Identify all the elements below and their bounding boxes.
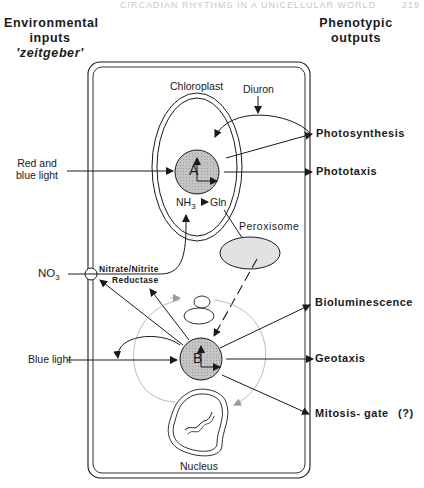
mitosis-gate-arrow <box>222 375 309 414</box>
oscillator-a-label: A <box>189 162 198 178</box>
peroxisome-icon <box>220 237 280 269</box>
red-blue-light-label: Red and blue light <box>16 157 58 181</box>
nh3-subscript: 3 <box>191 202 195 211</box>
nh3-text: NH <box>176 196 191 208</box>
gln-label: Gln <box>210 196 226 208</box>
diuron-label: Diuron <box>243 83 274 95</box>
geotaxis-label: Geotaxis <box>315 352 365 364</box>
b-reductase-arrow <box>150 289 189 340</box>
peroxisome-label: Peroxisome <box>239 220 299 232</box>
vesicle-icon <box>184 308 214 324</box>
no3-label: NO3 <box>38 267 60 282</box>
small-vesicle-icon <box>194 296 210 308</box>
b-transporter-arrow <box>100 280 183 345</box>
phototaxis-label: Phototaxis <box>316 165 377 177</box>
nucleus-icon <box>168 389 228 456</box>
blue-light-label: Blue light <box>28 353 71 365</box>
red-blue-light-line1: Red and <box>16 157 58 169</box>
bioluminescence-label: Bioluminescence <box>315 296 413 308</box>
chloroplast-label: Chloroplast <box>170 80 223 92</box>
mitosis-gate-label: Mitosis- gate <box>315 407 389 419</box>
no3-subscript: 3 <box>55 273 59 282</box>
reductase-label-line1: Nitrate/Nitrite <box>99 264 159 274</box>
b-feedback-arrow <box>118 336 180 358</box>
bioluminescence-arrow <box>220 305 310 348</box>
nucleus-label: Nucleus <box>180 460 218 472</box>
mitosis-uncertain-note: (?) <box>398 407 414 419</box>
reductase-label-line2: Reductase <box>112 275 159 285</box>
nh3-label: NH3 <box>176 196 196 211</box>
red-blue-light-line2: blue light <box>16 169 58 181</box>
oscillator-b-label: B <box>193 350 202 366</box>
photosynthesis-label: Photosynthesis <box>316 127 405 139</box>
no3-text: NO <box>38 267 55 279</box>
peroxisome-b-arrow <box>214 259 257 336</box>
